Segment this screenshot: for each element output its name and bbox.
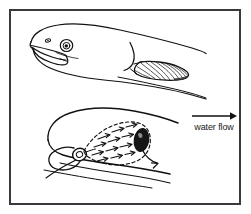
fish-lateral-view (30, 24, 206, 99)
dorsal-outline (31, 24, 206, 54)
eye-pupil (65, 44, 68, 47)
water-flow-arrow-group (192, 112, 237, 120)
right-arrow-icon-head (230, 112, 237, 120)
flow-arrow (122, 133, 134, 137)
mouth-entry-line (86, 149, 96, 152)
internal-flow-arrows (92, 123, 137, 161)
nostril-pore (47, 40, 49, 41)
flow-arrow (120, 143, 132, 147)
flow-arrow (126, 123, 137, 127)
flow-arrow (125, 151, 135, 155)
head-dorsal-outline (48, 108, 178, 140)
flow-arrow (92, 151, 104, 156)
flow-arrow (97, 157, 108, 161)
flow-arrow (94, 142, 106, 147)
figure-root: water flow (0, 0, 251, 214)
water-flow-label: water flow (186, 122, 242, 133)
opercular-margin (124, 43, 134, 71)
head-ventral-outline (48, 140, 170, 174)
fish-gill-diagram (0, 0, 251, 214)
flow-arrow (98, 134, 110, 140)
curved-exit-arrow (143, 151, 157, 163)
dark-opercular-opening (133, 128, 150, 153)
flow-arrow (111, 154, 123, 158)
flow-arrow (106, 147, 118, 152)
flow-arrow (108, 137, 120, 142)
belly-contour-2 (44, 170, 152, 188)
gill-chamber-flow-view (44, 108, 178, 188)
curved-exit-arrow-head (152, 163, 159, 168)
flow-arrow (112, 127, 124, 132)
